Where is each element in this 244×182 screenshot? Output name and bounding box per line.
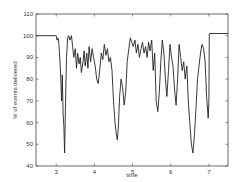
y-tick-label: 40 (26, 163, 33, 169)
y-tick-label: 110 (23, 11, 33, 17)
y-tick-label: 80 (26, 76, 33, 82)
y-tick-label: 50 (26, 141, 33, 147)
x-axis-title: time (126, 172, 138, 178)
y-axis-title: % of events delivered (12, 61, 18, 118)
y-tick-label: 100 (23, 33, 34, 39)
y-tick-label: 60 (26, 120, 33, 126)
chart-background (0, 0, 244, 182)
y-tick-label: 70 (26, 98, 33, 104)
y-tick-label: 90 (26, 54, 33, 60)
line-chart: 405060708090100110 34567 time % of event… (0, 0, 244, 182)
